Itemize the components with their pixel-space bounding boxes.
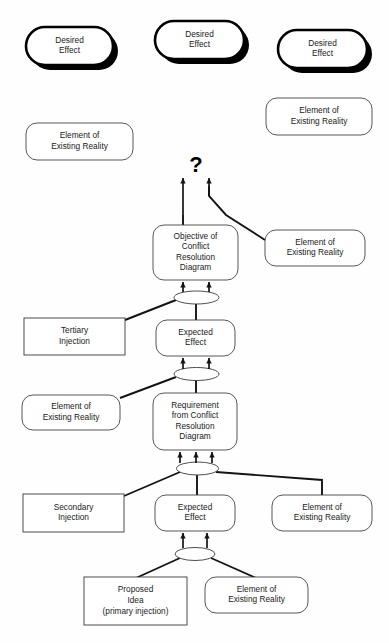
desired-effect-box-center-label: DesiredEffect [185, 29, 214, 50]
arrow-into-expected-lower-left-head [180, 533, 185, 539]
question-mark-label: ? [189, 152, 202, 177]
and-connector-ellipse-4 [175, 548, 215, 561]
and-connector-ellipse-3 [177, 462, 219, 475]
arrow-into-expected-upper-left-head [180, 358, 185, 364]
arrow-into-objective-left [180, 282, 185, 292]
link-ellipse3-to-secondary [124, 472, 180, 496]
secondary-injection-box-label: SecondaryInjection [54, 502, 95, 523]
and-connector-ellipse-1 [174, 291, 219, 304]
and-connector-ellipse-2 [174, 368, 219, 381]
arrow-into-expected-upper-right-head [206, 358, 211, 364]
arrow-into-objective-right-head [206, 282, 211, 288]
arrow-into-requirement-right-head [209, 452, 214, 458]
link-ellipse4-to-proposed [136, 558, 180, 578]
arrow-into-requirement-center-head [193, 452, 198, 458]
arrow-up-to-unknown-right-head [206, 178, 211, 184]
desired-effect-box-right-label: DesiredEffect [308, 38, 337, 59]
arrow-into-expected-upper-right [206, 358, 211, 369]
arrow-up-to-unknown-left [180, 178, 185, 215]
arrow-into-requirement-left [177, 452, 182, 463]
diagram-canvas: DesiredEffectDesiredEffectDesiredEffectE… [0, 0, 389, 643]
arrow-into-expected-lower-right [204, 533, 209, 548]
arrow-into-expected-upper-left [180, 358, 185, 369]
link-ellipse4-to-realitybottom [211, 558, 256, 578]
arrow-up-to-unknown-left-head [180, 178, 185, 184]
desired-effect-box-left-label: DesiredEffect [55, 35, 84, 56]
arrow-up-to-unknown-right [206, 178, 211, 196]
future-reality-tree-diagram: DesiredEffectDesiredEffectDesiredEffectE… [0, 0, 389, 643]
arrow-into-requirement-left-head [177, 452, 182, 458]
arrow-into-expected-lower-right-head [204, 533, 209, 539]
tertiary-injection-box-label: TertiaryInjection [59, 325, 90, 346]
arrow-into-expected-lower-left [180, 533, 185, 548]
arrow-into-objective-left-head [180, 282, 185, 288]
link-ellipse1-to-tertiary [125, 300, 176, 320]
arrow-into-objective-right [206, 282, 211, 292]
arrow-into-requirement-center [193, 452, 198, 463]
link-ellipse3-to-realitylowright [216, 472, 322, 495]
arrow-into-requirement-right [209, 452, 214, 463]
